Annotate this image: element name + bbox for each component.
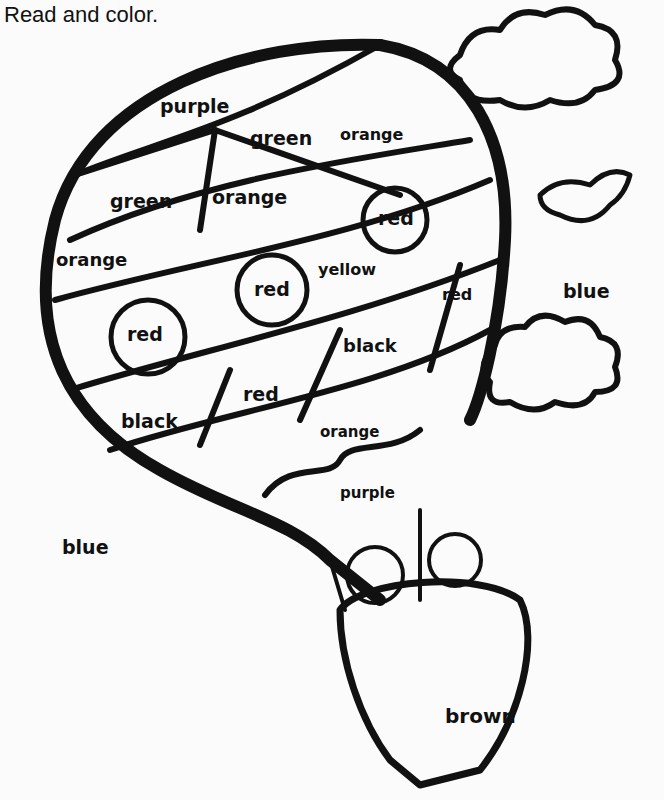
balloon-drawing <box>0 0 664 800</box>
label-green-2: green <box>110 190 172 212</box>
label-orange-3: orange <box>56 249 127 270</box>
label-red-1: red <box>442 285 472 304</box>
label-purple-bottom: purple <box>340 484 395 502</box>
label-yellow: yellow <box>318 260 376 279</box>
cloud-middle <box>484 316 618 410</box>
label-red-circle-2: red <box>254 278 290 300</box>
label-red-circle-3: red <box>127 323 163 345</box>
label-red-2: red <box>243 383 279 405</box>
label-orange-2: orange <box>212 186 287 208</box>
label-purple-top: purple <box>160 95 230 117</box>
label-orange-4: orange <box>320 423 379 441</box>
label-black-2: black <box>121 410 178 432</box>
label-red-circle-1: red <box>378 207 414 229</box>
bird <box>540 172 630 221</box>
label-green-1: green <box>250 127 312 149</box>
label-sky-blue-left: blue <box>62 536 109 558</box>
label-orange-1: orange <box>340 125 403 144</box>
cloud-top <box>450 9 620 107</box>
basket <box>340 582 528 785</box>
label-brown: brown <box>445 704 516 728</box>
label-black-1: black <box>343 335 397 356</box>
label-sky-blue-right: blue <box>563 280 610 302</box>
